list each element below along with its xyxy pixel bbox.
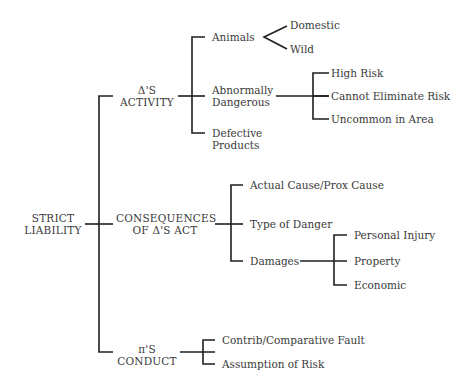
branch-consequences: CONSEQUENCES OF Δ'S ACT [116, 212, 214, 236]
branch-defendant-activity: Δ'S ACTIVITY [116, 84, 178, 108]
node-abnormally-dangerous: Abnormally Dangerous [212, 84, 273, 108]
node-animals: Animals [212, 31, 255, 43]
root-node-strict-liability: STRICT LIABILITY [22, 212, 84, 236]
node-property: Property [354, 255, 401, 267]
node-assumption-of-risk: Assumption of Risk [222, 358, 324, 370]
branch-line-1: CONSEQUENCES [116, 212, 214, 224]
node-domestic: Domestic [290, 19, 340, 31]
branch-line-2: OF Δ'S ACT [116, 224, 214, 236]
branch-line-1: Δ'S [116, 84, 178, 96]
node-economic: Economic [354, 279, 406, 291]
node-line-2: Products [212, 139, 262, 151]
node-personal-injury: Personal Injury [354, 229, 435, 241]
branch-line-1: π'S [116, 343, 178, 355]
connector-lines [0, 0, 456, 382]
node-actual-cause: Actual Cause/Prox Cause [250, 179, 384, 191]
node-defective-products: Defective Products [212, 127, 262, 151]
root-line-1: STRICT [22, 212, 84, 224]
branch-plaintiff-conduct: π'S CONDUCT [116, 343, 178, 367]
branch-line-2: ACTIVITY [116, 96, 178, 108]
node-high-risk: High Risk [331, 67, 383, 79]
node-cannot-eliminate-risk: Cannot Eliminate Risk [331, 90, 450, 102]
node-line-1: Defective [212, 127, 262, 139]
node-line-1: Abnormally [212, 84, 273, 96]
node-contrib-comparative-fault: Contrib/Comparative Fault [222, 334, 365, 346]
node-line-2: Dangerous [212, 96, 273, 108]
node-type-of-danger: Type of Danger [250, 218, 332, 230]
branch-line-2: CONDUCT [116, 355, 178, 367]
root-line-2: LIABILITY [22, 224, 84, 236]
node-damages: Damages [250, 255, 299, 267]
node-wild: Wild [290, 43, 314, 55]
node-uncommon-in-area: Uncommon in Area [331, 113, 434, 125]
